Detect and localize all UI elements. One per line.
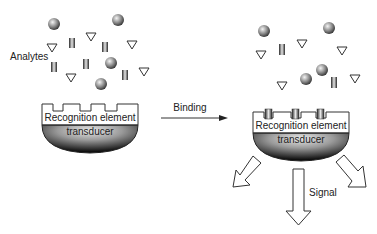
signal-arrow-right-icon [336,155,366,187]
left-analytes [47,14,149,90]
right-analytes [256,22,360,90]
rect-analyte-icon [69,38,75,48]
signal-arrow-left-icon [233,156,261,187]
triangle-analyte-icon [256,51,266,59]
signal-arrow-down-icon [286,169,311,225]
triangle-analyte-icon [86,33,96,41]
right-recognition-label: Recognition element [255,120,346,131]
analytes-label: Analytes [10,51,48,62]
sphere-analyte-icon [323,22,335,34]
arrowhead-icon [219,115,228,121]
bound-analyte-icon [292,109,299,119]
binding-label: Binding [173,102,206,113]
rect-analyte-icon [102,42,108,52]
biosensor-diagram: Analytes Recognition element transducer … [0,0,377,234]
left-recognition-label: Recognition element [44,112,135,123]
sphere-analyte-icon [105,57,117,69]
rect-analyte-icon [122,70,128,80]
triangle-analyte-icon [337,47,347,55]
left-transducer-label: transducer [66,126,114,137]
signal-label: Signal [309,187,337,198]
bound-analyte-icon [265,109,272,119]
sphere-analyte-icon [316,64,328,76]
triangle-analyte-icon [47,44,57,52]
right-transducer-label: transducer [277,134,325,145]
triangle-analyte-icon [66,74,76,82]
bound-analyte-icon [317,109,324,119]
sphere-analyte-icon [258,25,270,37]
triangle-analyte-icon [277,82,287,90]
rect-analyte-icon [51,62,57,72]
triangle-analyte-icon [350,75,360,83]
sphere-analyte-icon [48,18,60,30]
signal-arrows [233,155,366,225]
rect-analyte-icon [83,59,89,69]
sphere-analyte-icon [112,14,124,26]
triangle-analyte-icon [127,41,137,49]
rect-analyte-icon [279,44,285,55]
sphere-analyte-icon [300,73,312,85]
binding-arrow [161,115,228,121]
rect-analyte-icon [331,77,337,88]
triangle-analyte-icon [139,68,149,76]
sphere-analyte-icon [95,78,107,90]
triangle-analyte-icon [297,40,307,48]
